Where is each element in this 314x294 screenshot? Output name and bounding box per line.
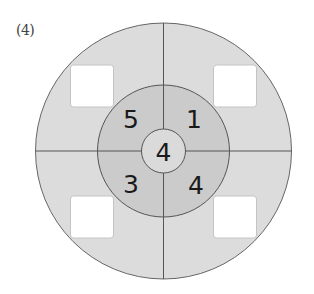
- middle-value-bottom-right: 4: [188, 171, 204, 200]
- center-value: 4: [156, 138, 172, 167]
- number-wheel-diagram: 5 1 3 4 4: [0, 0, 314, 294]
- answer-box-bottom-right[interactable]: [214, 196, 257, 238]
- answer-box-top-right[interactable]: [214, 65, 257, 107]
- middle-value-top-right: 1: [186, 105, 202, 134]
- answer-box-bottom-left[interactable]: [71, 196, 114, 238]
- middle-value-bottom-left: 3: [123, 170, 139, 199]
- middle-value-top-left: 5: [123, 105, 139, 134]
- answer-box-top-left[interactable]: [71, 65, 114, 107]
